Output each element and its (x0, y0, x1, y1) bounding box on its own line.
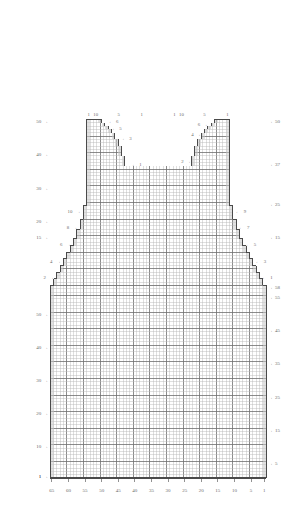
armhole-right-step: 3 (264, 259, 267, 264)
armhole-left-step: 10 (68, 209, 73, 214)
top-col-label: 1 (226, 112, 229, 117)
neckline-left-arrow: ← (109, 119, 114, 124)
left-axis-arrow: → (43, 378, 48, 383)
right-axis-arrow: → (268, 162, 273, 167)
left-axis-tick-lower: 20 (36, 411, 42, 416)
neckline-right-step: 2 (181, 159, 184, 164)
neckline-right-step: 6 (198, 122, 201, 127)
neckline-left-step: 5 (119, 126, 122, 131)
left-axis-tick-upper: 40 (36, 152, 42, 157)
left-axis-tick-lower: 10 (36, 444, 42, 449)
armhole-left-arrow: → (50, 275, 55, 280)
left-axis-arrow: → (43, 152, 48, 157)
x-axis-tick: 65 (49, 488, 55, 493)
right-axis-arrow: → (268, 119, 273, 124)
x-axis-tick: 5 (250, 488, 253, 493)
left-axis-arrow: → (43, 219, 48, 224)
armhole-right-arrow: ← (262, 275, 267, 280)
x-axis-tick: 30 (166, 488, 172, 493)
left-axis-arrow: → (43, 186, 48, 191)
right-axis-tick-lower: 45 (275, 328, 281, 333)
right-axis-arrow: → (268, 295, 273, 300)
top-col-label: 10 (93, 112, 98, 117)
neckline-right-step: 4 (191, 132, 194, 137)
right-axis-arrow: → (268, 428, 273, 433)
left-axis-tick-upper: 50 (36, 119, 42, 124)
armhole-left-step: 2 (43, 275, 46, 280)
x-axis-tick: 10 (232, 488, 238, 493)
top-col-label: 1 (88, 112, 91, 117)
left-axis-arrow: → (43, 235, 48, 240)
neckline-right-arrow: → (196, 132, 201, 137)
left-axis-arrow: → (43, 444, 48, 449)
armhole-left-arrow: → (56, 259, 61, 264)
neckline-left-arrow: ← (112, 126, 117, 131)
right-axis-tick-upper: 37 (275, 162, 281, 167)
neckline-left-arrow: ← (132, 162, 137, 167)
x-axis-tick: 25 (182, 488, 188, 493)
x-axis-tick: 50 (99, 488, 105, 493)
x-axis-tick: 1 (263, 488, 266, 493)
x-axis-tick: 40 (132, 488, 138, 493)
armhole-right-step: 9 (244, 209, 247, 214)
left-axis-arrow: → (43, 345, 48, 350)
armhole-left-arrow: → (73, 225, 78, 230)
left-axis-tick-upper: 15 (36, 235, 42, 240)
right-axis-tick-lower: 15 (275, 428, 281, 433)
neckline-right-arrow: → (203, 122, 208, 127)
armhole-right-step: 1 (270, 275, 273, 280)
armhole-left-step: 6 (60, 242, 63, 247)
right-axis-tick-lower: 5 (275, 461, 278, 466)
right-axis-tick-lower: 25 (275, 395, 281, 400)
armhole-right-arrow: ← (245, 242, 250, 247)
neckline-left-step: 3 (129, 136, 132, 141)
top-col-label: 10 (179, 112, 184, 117)
top-col-label: 5 (118, 112, 121, 117)
left-axis-tick-lower: 30 (36, 378, 42, 383)
right-axis-tick-upper: 50 (275, 119, 281, 124)
armhole-right-step: 5 (254, 242, 257, 247)
x-axis-tick: 45 (116, 488, 122, 493)
first-row-label: 1 (39, 474, 42, 479)
right-axis-tick-upper: 15 (275, 235, 281, 240)
right-axis-tick-upper: 25 (275, 202, 281, 207)
right-axis-arrow: → (268, 395, 273, 400)
left-axis-arrow: → (43, 474, 48, 479)
left-axis-tick-lower: 50 (36, 312, 42, 317)
right-axis-tick-lower: 35 (275, 361, 281, 366)
x-axis-tick: 20 (199, 488, 205, 493)
right-axis-arrow: → (268, 328, 273, 333)
top-col-label: 5 (203, 112, 206, 117)
left-axis-arrow: → (43, 119, 48, 124)
neckline-left-step: 6 (116, 119, 119, 124)
armhole-left-step: 4 (50, 259, 53, 264)
neckline-right-arrow: → (186, 159, 191, 164)
right-axis-tick-lower: 58 (275, 285, 281, 290)
right-axis-arrow: → (268, 285, 273, 290)
right-axis-arrow: → (268, 361, 273, 366)
left-axis-arrow: → (43, 411, 48, 416)
armhole-left-arrow: → (66, 242, 71, 247)
x-axis-tick: 15 (215, 488, 221, 493)
right-axis-arrow: → (268, 202, 273, 207)
right-axis-arrow: → (268, 461, 273, 466)
armhole-right-arrow: ← (239, 225, 244, 230)
x-axis-tick: 55 (83, 488, 89, 493)
armhole-right-step: 7 (247, 225, 250, 230)
right-axis-tick-lower: 55 (275, 295, 281, 300)
left-axis-tick-upper: 20 (36, 219, 42, 224)
x-axis-tick: 35 (149, 488, 155, 493)
chart-canvas: 6560555045403530252015105150→40→30→20→10… (0, 0, 304, 514)
left-axis-tick-lower: 40 (36, 345, 42, 350)
top-col-label: 1 (173, 112, 176, 117)
x-axis-tick: 60 (66, 488, 72, 493)
neckline-left-arrow: ← (122, 136, 127, 141)
top-col-label: 1 (141, 112, 144, 117)
armhole-left-arrow: → (76, 209, 81, 214)
armhole-right-arrow: ← (236, 209, 241, 214)
armhole-right-arrow: ← (255, 259, 260, 264)
knitting-chart: 6560555045403530252015105150→40→30→20→10… (0, 0, 304, 514)
armhole-left-step: 8 (67, 225, 70, 230)
right-axis-arrow: → (268, 235, 273, 240)
left-axis-arrow: → (43, 312, 48, 317)
